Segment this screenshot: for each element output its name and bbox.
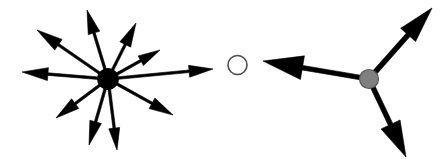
figure-root: [0, 0, 444, 159]
medium-degree-node[interactable]: [360, 70, 379, 89]
node-degree-diagram: [0, 0, 444, 159]
high-degree-node[interactable]: [98, 69, 119, 90]
isolated-node[interactable]: [228, 56, 247, 75]
